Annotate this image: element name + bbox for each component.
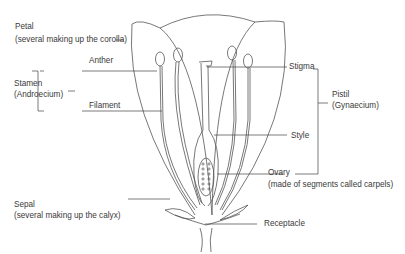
label-ovary-note: (made of segments called carpels) (268, 180, 393, 190)
label-sepal-note: (several making up the calyx) (14, 211, 120, 221)
ovary-chamber (198, 158, 214, 196)
label-filament: Filament (89, 101, 120, 111)
petal-left (132, 22, 212, 215)
anther-2 (174, 48, 183, 62)
label-stigma: Stigma (289, 62, 314, 72)
filament-2 (175, 62, 200, 205)
label-ovary: Ovary (268, 168, 290, 178)
ovules (202, 163, 210, 190)
style-left (194, 63, 205, 206)
stem (200, 228, 212, 252)
anther-1 (156, 52, 165, 66)
sepal-left (165, 209, 195, 219)
label-anther: Anther (89, 56, 113, 66)
label-petal: Petal (15, 22, 34, 32)
receptacle (175, 214, 240, 225)
petal-back (160, 15, 255, 28)
label-sepal: Sepal (14, 200, 35, 210)
label-stamen-note: (Androecium) (14, 90, 63, 100)
anther-4 (244, 54, 253, 68)
label-style: Style (291, 131, 309, 141)
label-petal-note: (several making up the corolla) (15, 35, 127, 45)
label-stamen: Stamen (14, 79, 42, 89)
filament-3 (215, 60, 234, 205)
label-pistil-note: (Gynaecium) (332, 101, 379, 111)
label-receptacle: Receptacle (264, 219, 305, 229)
label-pistil: Pistil (332, 90, 349, 100)
